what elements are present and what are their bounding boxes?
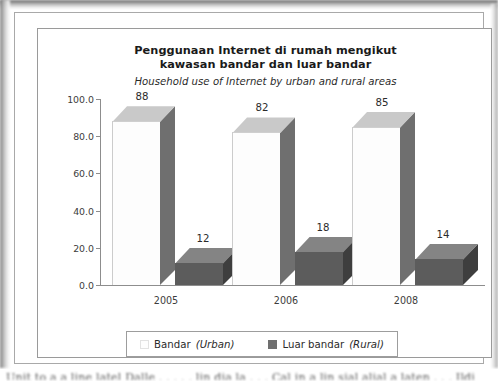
y-axis-tick-mark (96, 248, 100, 249)
x-axis-tick-label-2008: 2008 (394, 295, 418, 306)
bar-urban-2006[interactable] (232, 117, 280, 285)
legend-label-translation: (Rural) (349, 339, 384, 350)
bar-rural-2005[interactable] (175, 248, 223, 285)
scanned-page: Penggunaan Internet di rumah mengikut ka… (0, 0, 498, 381)
chart-container: Penggunaan Internet di rumah mengikut ka… (37, 28, 492, 358)
bar-rural-2006[interactable] (295, 237, 343, 285)
x-axis-tick-label-2005: 2005 (154, 295, 178, 306)
scan-shadow-left-edge (0, 0, 10, 368)
legend-swatch-urban-icon (140, 340, 149, 349)
legend-swatch-rural-icon (268, 340, 277, 349)
bar-urban-2006-side-face (280, 117, 295, 285)
data-label-urban-2006: 82 (256, 102, 269, 113)
legend-entry-rural[interactable]: Luar bandar (Rural) (268, 339, 383, 350)
bar-urban-2006-front-face (232, 132, 280, 285)
bar-urban-2008[interactable] (352, 112, 400, 285)
bar-urban-2008-side-face (400, 112, 415, 285)
figure-outer-frame: Penggunaan Internet di rumah mengikut ka… (14, 12, 484, 364)
bar-urban-2008-front-face (352, 127, 400, 285)
y-axis-tick-label: 100.0 (46, 94, 94, 105)
data-label-urban-2008: 85 (376, 97, 389, 108)
y-axis-tick-mark (96, 285, 100, 286)
chart-legend: Bandar (Urban)Luar bandar (Rural) (126, 331, 398, 357)
y-axis-line (100, 99, 101, 286)
legend-label-main: Luar bandar (282, 339, 344, 350)
scan-bottom-text-row: Unit to a a line latel Dalle . . . . . l… (0, 369, 498, 381)
y-axis-tick-label: 60.0 (46, 168, 94, 179)
y-axis-tick-mark (96, 211, 100, 212)
bar-rural-2008[interactable] (415, 244, 463, 285)
y-axis-tick-mark (96, 99, 100, 100)
x-axis-tick-label-2006: 2006 (274, 295, 298, 306)
bar-rural-2008-front-face (415, 259, 463, 285)
scan-shadow-top-edge (0, 0, 498, 9)
bar-rural-2005-front-face (175, 263, 223, 285)
data-label-rural-2005: 12 (197, 233, 210, 244)
legend-label-translation: (Urban) (196, 339, 235, 350)
scan-bottom-text-smudge: Unit to a a line latel Dalle . . . . . l… (6, 371, 492, 380)
y-axis-tick-label: 80.0 (46, 131, 94, 142)
legend-entry-urban[interactable]: Bandar (Urban) (140, 339, 234, 350)
x-axis-line (100, 285, 485, 286)
bar-urban-2005-side-face (160, 106, 175, 285)
y-axis-tick-mark (96, 173, 100, 174)
plot-area: 0.020.040.060.080.0100.08812200582182006… (38, 29, 492, 358)
data-label-rural-2006: 18 (317, 222, 330, 233)
bar-rural-2006-front-face (295, 252, 343, 285)
scan-shadow-right-edge (491, 4, 498, 368)
bar-urban-2005[interactable] (112, 106, 160, 285)
y-axis-tick-label: 20.0 (46, 242, 94, 253)
bar-urban-2005-front-face (112, 121, 160, 285)
y-axis-tick-mark (96, 136, 100, 137)
y-axis-tick-label: 40.0 (46, 205, 94, 216)
data-label-urban-2005: 88 (136, 91, 149, 102)
legend-label-main: Bandar (154, 339, 191, 350)
data-label-rural-2008: 14 (437, 229, 450, 240)
y-axis-tick-label: 0.0 (46, 280, 94, 291)
